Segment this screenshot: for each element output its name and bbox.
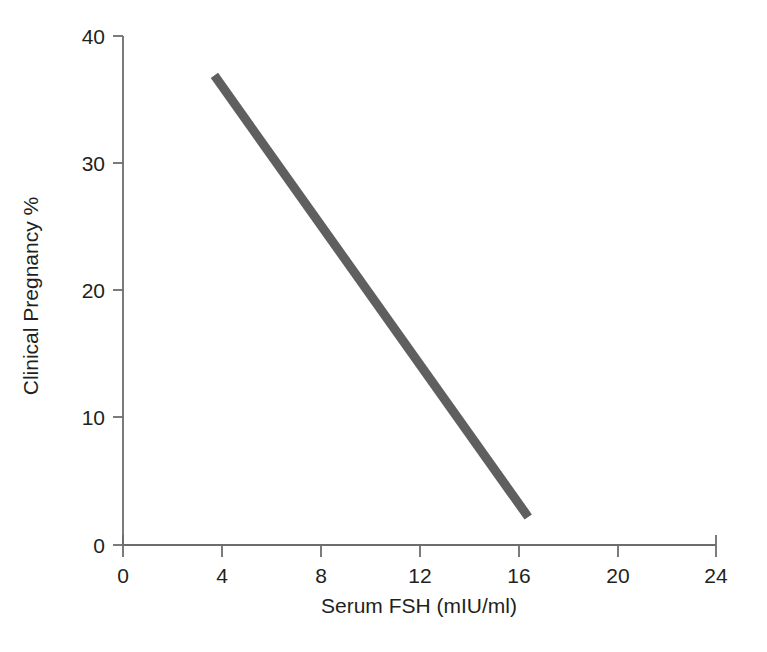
x-axis-tick-labels: 0 4 8 12 16 20 24 (117, 564, 728, 587)
x-axis-ticks (123, 535, 716, 557)
chart-canvas: 0 10 20 30 40 0 4 8 12 16 20 24 (0, 0, 767, 652)
chart-figure: 0 10 20 30 40 0 4 8 12 16 20 24 (0, 0, 767, 652)
y-tick-label-20: 20 (82, 279, 105, 302)
x-tick-label-20: 20 (606, 564, 629, 587)
x-tick-label-12: 12 (408, 564, 431, 587)
y-tick-label-40: 40 (82, 25, 105, 48)
x-tick-label-4: 4 (216, 564, 228, 587)
data-series-group (214, 75, 528, 517)
y-tick-label-0: 0 (93, 534, 105, 557)
x-axis-title: Serum FSH (mIU/ml) (321, 594, 517, 617)
y-tick-label-30: 30 (82, 152, 105, 175)
y-axis-title: Clinical Pregnancy % (19, 197, 42, 395)
x-tick-label-8: 8 (315, 564, 327, 587)
x-tick-label-16: 16 (507, 564, 530, 587)
x-tick-label-0: 0 (117, 564, 129, 587)
y-axis-tick-labels: 0 10 20 30 40 (82, 25, 105, 557)
y-tick-label-10: 10 (82, 406, 105, 429)
x-tick-label-24: 24 (704, 564, 728, 587)
series-line-clinical-pregnancy (214, 75, 528, 517)
axes-group (123, 36, 716, 545)
